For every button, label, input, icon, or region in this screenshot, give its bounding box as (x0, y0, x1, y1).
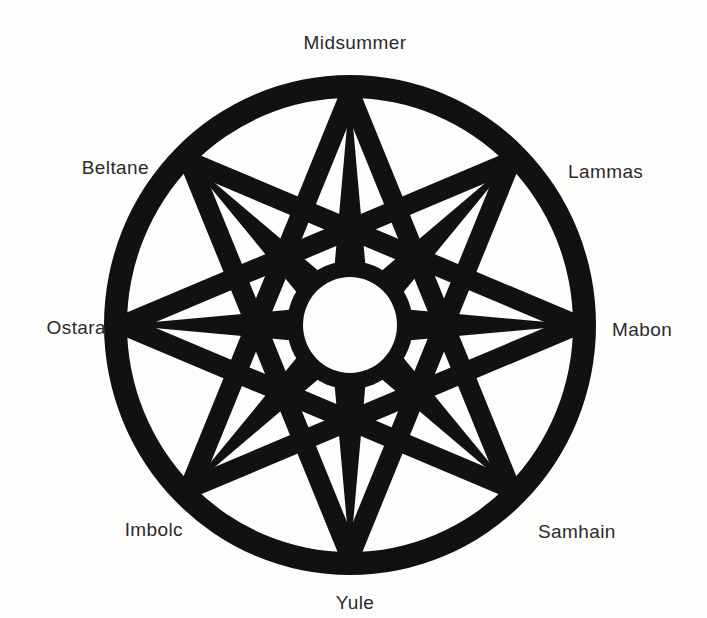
label-midsummer: Midsummer (304, 33, 407, 52)
label-yule: Yule (336, 593, 375, 612)
wheel-of-the-year-figure: Midsummer Lammas Mabon Samhain Yule Imbo… (0, 0, 707, 618)
label-ostara: Ostara (47, 318, 106, 337)
label-mabon: Mabon (612, 320, 672, 339)
label-imbolc: Imbolc (125, 520, 183, 539)
wheel-graphic (104, 75, 596, 575)
label-beltane: Beltane (82, 158, 149, 177)
label-samhain: Samhain (538, 522, 616, 541)
label-lammas: Lammas (568, 162, 643, 181)
hub-circle (303, 277, 397, 373)
